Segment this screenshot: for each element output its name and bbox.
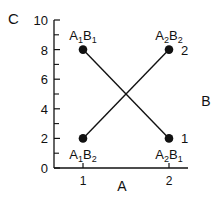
y-tick-label: 10: [34, 13, 48, 28]
y-tick-label: 2: [41, 131, 48, 146]
x-tick-label: 2: [166, 174, 173, 188]
series-name-label: 2: [181, 43, 188, 58]
data-point: [165, 45, 174, 54]
y-axis-label: C: [8, 10, 19, 27]
series-name-label: 1: [181, 131, 188, 146]
interaction-chart: C A B 024681012 A1B1A2B11A1B2A2B22: [0, 0, 219, 201]
data-point: [79, 134, 88, 143]
y-tick-label: 6: [41, 72, 48, 87]
point-label: A2B2: [155, 28, 182, 45]
x-axis-label: A: [117, 178, 127, 194]
y-tick-label: 8: [41, 43, 48, 58]
point-label: A1B1: [69, 28, 96, 45]
y-tick-label: 0: [41, 161, 48, 176]
x-tick-label: 1: [80, 174, 87, 188]
data-point: [165, 134, 174, 143]
y-tick-label: 4: [41, 102, 48, 117]
point-label: A2B1: [155, 147, 182, 164]
series-lines: [83, 50, 169, 139]
point-label: A1B2: [69, 147, 96, 164]
legend-title: B: [201, 93, 210, 109]
data-point: [79, 45, 88, 54]
